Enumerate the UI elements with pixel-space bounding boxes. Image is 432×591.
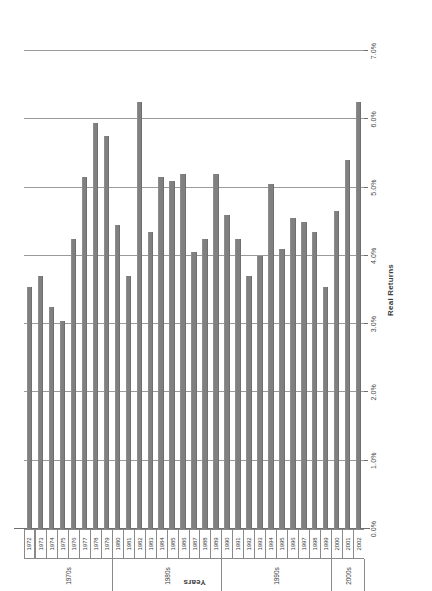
value-tick-0 bbox=[364, 528, 368, 529]
bar-1989 bbox=[213, 174, 218, 529]
value-axis-title: Real Returns bbox=[386, 51, 395, 529]
value-tick-label-4: 4.0% bbox=[370, 248, 377, 264]
bar-row bbox=[213, 174, 218, 529]
bar-1975 bbox=[60, 321, 65, 529]
bar-1972 bbox=[27, 287, 32, 529]
bar-1988 bbox=[202, 239, 207, 529]
bar-1991 bbox=[235, 239, 240, 529]
bar-row bbox=[257, 256, 262, 529]
value-tick-label-7: 7.0% bbox=[370, 43, 377, 59]
category-label-2001: 2001 bbox=[342, 529, 353, 559]
value-axis: 0.0%1.0%2.0%3.0%4.0%5.0%6.0%7.0% bbox=[364, 51, 404, 529]
bar-1999 bbox=[323, 287, 328, 529]
category-axis-title: Years bbox=[24, 577, 364, 589]
bar-row bbox=[290, 218, 295, 529]
bar-chart-figure: 0.0%1.0%2.0%3.0%4.0%5.0%6.0%7.0% Real Re… bbox=[0, 0, 432, 591]
category-label-1974: 1974 bbox=[46, 529, 57, 559]
value-tick-6 bbox=[364, 118, 368, 119]
category-label-1999: 1999 bbox=[320, 529, 331, 559]
bar-1995 bbox=[279, 249, 284, 529]
bar-2001 bbox=[345, 160, 350, 529]
bar-row bbox=[180, 174, 185, 529]
bar-row bbox=[191, 252, 196, 529]
bar-1993 bbox=[257, 256, 262, 529]
category-label-1994: 1994 bbox=[265, 529, 276, 559]
bar-1996 bbox=[290, 218, 295, 529]
category-label-1986: 1986 bbox=[178, 529, 189, 559]
bar-series bbox=[24, 51, 364, 529]
category-label-1992: 1992 bbox=[243, 529, 254, 559]
value-tick-7 bbox=[364, 50, 368, 51]
category-label-1988: 1988 bbox=[199, 529, 210, 559]
bar-1984 bbox=[158, 177, 163, 529]
bar-row bbox=[301, 222, 306, 529]
category-label-1979: 1979 bbox=[101, 529, 112, 559]
bar-1990 bbox=[224, 215, 229, 529]
bar-1979 bbox=[104, 136, 109, 529]
bar-row bbox=[279, 249, 284, 529]
bar-1987 bbox=[191, 252, 196, 529]
bar-1997 bbox=[301, 222, 306, 529]
category-label-1977: 1977 bbox=[79, 529, 90, 559]
value-tick-4 bbox=[364, 255, 368, 256]
bar-row bbox=[312, 232, 317, 529]
category-axis-title-text: Years bbox=[183, 578, 205, 587]
bar-1998 bbox=[312, 232, 317, 529]
category-label-1987: 1987 bbox=[189, 529, 200, 559]
category-label-1991: 1991 bbox=[232, 529, 243, 559]
decade-separator-2000s bbox=[364, 559, 365, 591]
bar-1974 bbox=[49, 307, 54, 529]
bar-row bbox=[38, 276, 43, 529]
bar-row bbox=[82, 177, 87, 529]
bar-1983 bbox=[148, 232, 153, 529]
bar-row bbox=[115, 225, 120, 529]
bar-1973 bbox=[38, 276, 43, 529]
category-label-1996: 1996 bbox=[287, 529, 298, 559]
bar-row bbox=[126, 276, 131, 529]
bar-row bbox=[356, 102, 361, 529]
category-label-1972: 1972 bbox=[24, 529, 35, 559]
bar-1985 bbox=[169, 181, 174, 529]
bar-1992 bbox=[246, 276, 251, 529]
bar-1978 bbox=[93, 123, 98, 529]
bar-1977 bbox=[82, 177, 87, 529]
bar-row bbox=[158, 177, 163, 529]
category-label-2002: 2002 bbox=[353, 529, 364, 559]
category-label-2000: 2000 bbox=[331, 529, 342, 559]
category-label-1982: 1982 bbox=[134, 529, 145, 559]
bar-row bbox=[345, 160, 350, 529]
bar-row bbox=[169, 181, 174, 529]
bar-row bbox=[202, 239, 207, 529]
bar-1980 bbox=[115, 225, 120, 529]
bar-2000 bbox=[334, 211, 339, 529]
category-label-1983: 1983 bbox=[145, 529, 156, 559]
value-tick-label-5: 5.0% bbox=[370, 179, 377, 195]
bar-row bbox=[27, 287, 32, 529]
bar-row bbox=[323, 287, 328, 529]
bar-row bbox=[334, 211, 339, 529]
bar-row bbox=[60, 321, 65, 529]
bar-1981 bbox=[126, 276, 131, 529]
bar-row bbox=[93, 123, 98, 529]
value-tick-label-6: 6.0% bbox=[370, 111, 377, 127]
value-tick-2 bbox=[364, 391, 368, 392]
category-label-1973: 1973 bbox=[35, 529, 46, 559]
category-label-1997: 1997 bbox=[298, 529, 309, 559]
scan-edge bbox=[0, 0, 432, 8]
category-label-1985: 1985 bbox=[167, 529, 178, 559]
value-tick-label-0: 0.0% bbox=[370, 521, 377, 537]
category-label-1995: 1995 bbox=[276, 529, 287, 559]
value-tick-1 bbox=[364, 460, 368, 461]
bar-row bbox=[137, 102, 142, 529]
bar-row bbox=[148, 232, 153, 529]
value-tick-label-3: 3.0% bbox=[370, 316, 377, 332]
category-label-1989: 1989 bbox=[210, 529, 221, 559]
bar-row bbox=[49, 307, 54, 529]
bar-row bbox=[268, 184, 273, 529]
bar-row bbox=[104, 136, 109, 529]
value-tick-label-2: 2.0% bbox=[370, 384, 377, 400]
value-tick-label-1: 1.0% bbox=[370, 453, 377, 469]
category-label-1975: 1975 bbox=[57, 529, 68, 559]
bar-1976 bbox=[71, 239, 76, 529]
value-tick-3 bbox=[364, 323, 368, 324]
